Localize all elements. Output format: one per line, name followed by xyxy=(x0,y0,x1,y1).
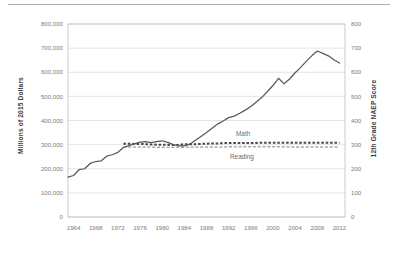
reading-series-label: Reading xyxy=(230,153,254,161)
x-tick-label: 2012 xyxy=(333,224,347,231)
right-axis-tick-labels: 0100200300400500600700800 xyxy=(351,20,362,220)
right-tick-label: 700 xyxy=(351,44,362,51)
x-tick-label: 1996 xyxy=(244,224,258,231)
right-tick-label: 200 xyxy=(351,165,362,172)
left-tick-label: 400,000 xyxy=(41,117,64,124)
chart-plot-svg: 0100,000200,000300,000400,000500,000600,… xyxy=(0,0,398,254)
right-tick-label: 800 xyxy=(351,20,362,27)
right-tick-label: 600 xyxy=(351,68,362,75)
left-tick-label: 300,000 xyxy=(41,141,64,148)
left-tick-label: 700,000 xyxy=(41,44,64,51)
x-tick-label: 1988 xyxy=(200,224,214,231)
right-tick-label: 400 xyxy=(351,117,362,124)
x-tick-label: 1972 xyxy=(111,224,125,231)
left-tick-label: 100,000 xyxy=(41,189,64,196)
x-tick-label: 2004 xyxy=(288,224,302,231)
x-tick-label: 1980 xyxy=(155,224,169,231)
left-tick-label: 0 xyxy=(60,213,64,220)
left-tick-label: 600,000 xyxy=(41,68,64,75)
left-tick-label: 800,000 xyxy=(41,20,64,27)
total-spending-series-line xyxy=(68,51,339,177)
x-tick-label: 1992 xyxy=(222,224,236,231)
x-tick-label: 1984 xyxy=(178,224,192,231)
chart-figure: Millions of 2015 Dollars 12th Grade NAEP… xyxy=(0,0,398,254)
x-axis-tick-labels: 1964196819721976198019841988199219962000… xyxy=(67,224,347,231)
left-tick-label: 200,000 xyxy=(41,165,64,172)
left-axis-tick-labels: 0100,000200,000300,000400,000500,000600,… xyxy=(41,20,64,220)
x-tick-label: 1964 xyxy=(67,224,81,231)
right-tick-label: 300 xyxy=(351,141,362,148)
gridlines-group xyxy=(68,24,345,217)
x-tick-label: 1968 xyxy=(89,224,103,231)
x-tick-label: 2000 xyxy=(266,224,280,231)
x-tick-label: 1976 xyxy=(133,224,147,231)
right-tick-label: 100 xyxy=(351,189,362,196)
math-series-label: Math xyxy=(236,130,251,137)
x-tick-label: 2008 xyxy=(311,224,325,231)
right-tick-label: 0 xyxy=(351,213,355,220)
left-tick-label: 500,000 xyxy=(41,93,64,100)
right-tick-label: 500 xyxy=(351,93,362,100)
